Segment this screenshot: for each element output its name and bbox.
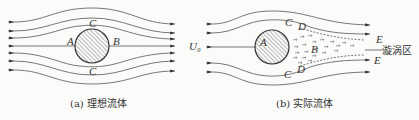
wake-vortices (293, 35, 354, 64)
panel-a-ideal-fluid: C A B C (a) 理想流体 (8, 8, 175, 109)
caption-b: (b) 实际流体 (276, 97, 333, 109)
label-a-right-b: B (113, 35, 120, 47)
flow-diagram: C A B C (a) 理想流体 U₀ (0, 0, 419, 120)
label-a-left-a: A (66, 35, 74, 47)
cylinder-a (75, 29, 109, 63)
label-b-bottom-c: C (284, 68, 292, 80)
panel-b-real-fluid: U₀ C D (189, 11, 412, 109)
label-b-inflow-u0: U₀ (189, 40, 201, 52)
caption-a: (a) 理想流体 (70, 97, 127, 109)
streamlines-b (206, 11, 385, 85)
label-b-left-a: A (259, 36, 267, 48)
label-b-right-b: B (311, 43, 318, 55)
label-a-bottom-c: C (89, 65, 97, 77)
label-b-top-d: D (297, 20, 306, 32)
label-b-wake-region: 漩涡区 (382, 44, 412, 56)
label-b-top-c: C (285, 16, 293, 28)
label-b-lower-e: E (373, 54, 381, 66)
label-b-bottom-d: D (296, 63, 305, 75)
label-b-upper-e: E (375, 33, 383, 45)
label-a-top-c: C (89, 17, 97, 29)
